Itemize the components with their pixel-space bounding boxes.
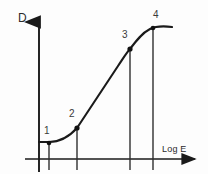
- curve-point-4: [151, 26, 156, 31]
- curve-point-3: [127, 46, 132, 51]
- curve-point-2: [74, 125, 79, 130]
- x-axis-label: Log E: [162, 144, 187, 154]
- characteristic-curve-figure: D Log E 1 2 3 4: [0, 0, 208, 174]
- point-label-1: 1: [44, 125, 50, 136]
- curve-point-markers: [47, 26, 156, 146]
- curve-point-1: [47, 141, 52, 146]
- point-drop-lines: [49, 28, 153, 170]
- y-axis-label: D: [18, 11, 27, 25]
- point-label-2: 2: [69, 108, 75, 119]
- point-label-4: 4: [153, 9, 159, 20]
- point-label-3: 3: [122, 29, 128, 40]
- characteristic-curve-path: [39, 26, 172, 142]
